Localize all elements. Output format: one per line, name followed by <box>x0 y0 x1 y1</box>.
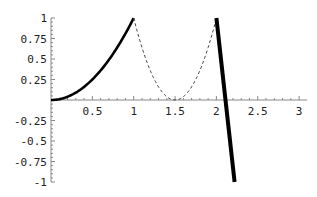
y-tick-label: -0.5 <box>21 135 48 148</box>
x-tick-label: 3 <box>296 105 303 118</box>
series-segment-1 <box>51 18 134 100</box>
chart: 10.750.50.25-0.25-0.5-0.75-10.511.522.53 <box>0 0 317 197</box>
x-tick-label: 1.5 <box>165 105 185 118</box>
y-tick-label: 0.25 <box>21 74 48 87</box>
x-tick-label: 0.5 <box>82 105 102 118</box>
x-tick-label: 2 <box>213 105 220 118</box>
y-tick-label: 1 <box>40 12 47 25</box>
series-segment-2 <box>134 18 217 100</box>
x-tick-label: 1 <box>130 105 137 118</box>
y-tick-label: -1 <box>34 176 47 189</box>
x-tick-label: 2.5 <box>248 105 268 118</box>
y-tick-label: 0.75 <box>21 33 48 46</box>
y-tick-label: 0.5 <box>27 53 47 66</box>
y-tick-label: -0.25 <box>14 115 47 128</box>
y-tick-label: -0.75 <box>14 156 47 169</box>
